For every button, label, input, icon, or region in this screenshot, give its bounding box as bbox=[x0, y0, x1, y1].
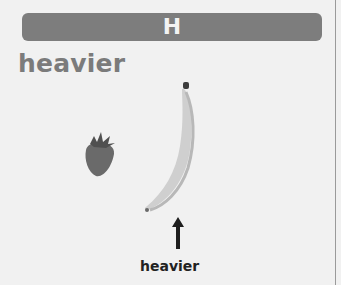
right-border bbox=[335, 0, 336, 285]
arrow-up-icon bbox=[171, 216, 185, 250]
strawberry-icon bbox=[82, 130, 118, 180]
vocabulary-word: heavier bbox=[18, 49, 125, 78]
banana-icon bbox=[142, 80, 212, 216]
letter-banner: H bbox=[22, 13, 322, 41]
heavier-label: heavier bbox=[140, 258, 199, 274]
